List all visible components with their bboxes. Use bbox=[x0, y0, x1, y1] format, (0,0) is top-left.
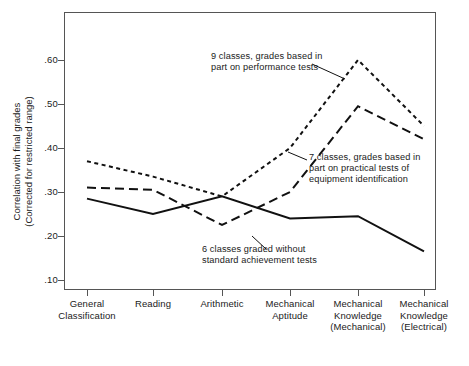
x-tick-mark bbox=[358, 290, 359, 296]
y-tick-mark bbox=[58, 236, 64, 237]
y-tick-mark bbox=[58, 60, 64, 61]
y-tick-mark bbox=[58, 148, 64, 149]
x-tick-mark bbox=[87, 290, 88, 296]
annotation-leader-1 bbox=[288, 152, 307, 160]
x-tick-mark bbox=[153, 290, 154, 296]
chart-figure: .10.20.30.40.50.60 Correlation with fina… bbox=[0, 0, 469, 366]
x-axis-label-line: (Electrical) bbox=[378, 321, 469, 333]
x-axis-label-5: MechanicalKnowledge(Electrical) bbox=[378, 298, 469, 333]
y-tick-mark bbox=[58, 104, 64, 105]
annotation-7-classes: 7 classes, grades based in part on pract… bbox=[309, 152, 420, 185]
annotation-9-classes: 9 classes, grades based in part on perfo… bbox=[211, 51, 322, 73]
annotation-6-classes: 6 classes graded without standard achiev… bbox=[202, 244, 317, 266]
x-axis-label-line: Mechanical bbox=[378, 298, 469, 310]
y-tick-mark bbox=[58, 280, 64, 281]
x-tick-mark bbox=[222, 290, 223, 296]
x-axis-label-line: Classification bbox=[41, 310, 133, 322]
y-tick-mark bbox=[58, 192, 64, 193]
x-axis-label-line: Knowledge bbox=[378, 310, 469, 322]
x-tick-mark bbox=[424, 290, 425, 296]
x-tick-mark bbox=[290, 290, 291, 296]
